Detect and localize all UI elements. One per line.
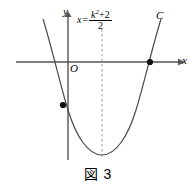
equation-equals-sign: = (82, 15, 88, 25)
fraction-denominator: 2 (96, 21, 105, 31)
figure-caption: 図 3 (0, 163, 196, 183)
origin-label: O (70, 63, 78, 74)
marked-point-left (60, 102, 66, 108)
y-axis-label: y (63, 6, 68, 17)
equation-lhs: x (77, 15, 81, 25)
equation-fraction: k2+2 2 (89, 9, 112, 31)
marked-point-right (147, 59, 153, 65)
numerator-rest: +2 (99, 9, 110, 20)
x-axis-label: x (182, 55, 187, 66)
axis-of-symmetry-equation: x = k2+2 2 (77, 9, 112, 31)
curve-label-c: C (156, 10, 163, 21)
fraction-numerator: k2+2 (89, 9, 112, 20)
figure-container: y x O C x = k2+2 2 図 3 (0, 0, 196, 189)
